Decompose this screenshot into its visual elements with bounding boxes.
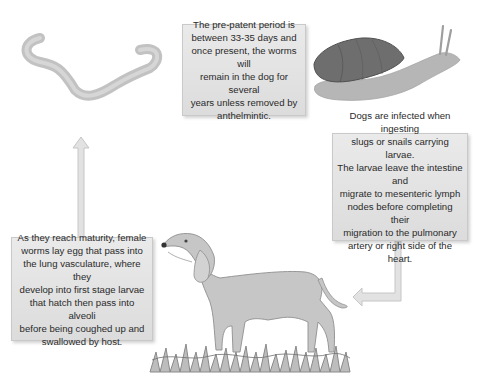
grass-icon xyxy=(150,344,350,372)
snail-icon xyxy=(314,26,460,100)
stage-text-adult-worm: The pre-patent period is between 33-35 d… xyxy=(187,18,301,122)
stage-text-dog-host: As they reach maturity, female worms lay… xyxy=(16,231,148,348)
stage-box-dog-host: As they reach maturity, female worms lay… xyxy=(11,237,153,341)
stage-box-adult-worm: The pre-patent period is between 33-35 d… xyxy=(182,24,306,116)
worm-icon xyxy=(27,38,158,96)
stage-text-snail-host: Dogs are infected when ingesting slugs o… xyxy=(337,109,463,265)
stage-box-snail-host: Dogs are infected when ingesting slugs o… xyxy=(332,133,468,241)
dog-icon xyxy=(161,233,347,352)
arrow-dog-to-worm xyxy=(73,137,89,237)
